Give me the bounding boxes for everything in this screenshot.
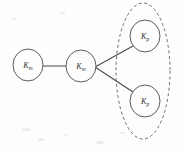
figure-container: Km Km Kp Kp xyxy=(0,0,183,152)
node-km-middle: Km xyxy=(66,50,96,82)
node-km-left-label-sub: m xyxy=(29,65,33,71)
node-kp-bottom: Kp xyxy=(130,85,160,117)
node-kp-top: Kp xyxy=(130,20,160,52)
node-kp-bottom-label-sub: p xyxy=(145,101,149,107)
graph-diagram: Km Km Kp Kp xyxy=(0,0,183,152)
edge-km-middle-to-kp-bottom xyxy=(95,67,133,92)
node-km-left: Km xyxy=(13,49,43,81)
node-km-middle-label-sub: m xyxy=(82,66,86,72)
edge-km-middle-to-kp-top xyxy=(95,46,133,67)
node-kp-top-label-sub: p xyxy=(145,36,149,42)
